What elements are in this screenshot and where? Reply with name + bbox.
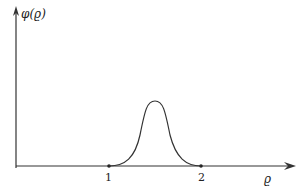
- bump-curve: [109, 101, 201, 166]
- x-tick-1: 1: [105, 171, 112, 184]
- x-axis-label: ϱ: [264, 172, 271, 186]
- y-axis-label: φ(ϱ): [21, 7, 46, 21]
- x-tick-2: 2: [198, 171, 205, 184]
- chart-canvas: [0, 0, 299, 188]
